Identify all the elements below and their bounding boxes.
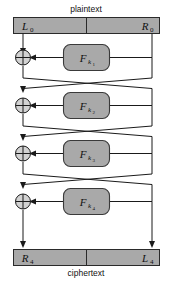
arrowhead-L4-in (149, 241, 155, 248)
label-R4: R (21, 252, 29, 264)
label-R0: R (141, 20, 149, 32)
label-L4: L (141, 252, 148, 264)
round-function-box-2[interactable]: F k 2 (64, 93, 110, 119)
arrowhead-R4-in (20, 241, 26, 248)
label-R0-subscript: 0 (150, 26, 154, 34)
arrowhead-xor2-in (20, 86, 26, 93)
fbox-2-label: F (79, 100, 87, 112)
xor-node-3[interactable] (16, 146, 31, 161)
plaintext-label: plaintext (70, 4, 102, 14)
arrowhead-xor3-in (20, 134, 26, 141)
xor-node-4[interactable] (16, 194, 31, 209)
round-function-box-4[interactable]: F k 4 (64, 189, 110, 215)
fbox-3-label: F (79, 148, 87, 160)
top-register-bar: L 0 R 0 (14, 18, 160, 35)
label-L0: L (21, 20, 28, 32)
feistel-diagram: plaintext L 0 R 0 (0, 0, 173, 282)
arrowhead-xor4-in (20, 182, 26, 189)
fbox-1-rect[interactable] (64, 45, 110, 71)
fbox-4-label: F (79, 196, 87, 208)
fbox-4-rect[interactable] (64, 189, 110, 215)
label-L0-subscript: 0 (30, 26, 34, 34)
round-function-box-3[interactable]: F k 3 (64, 141, 110, 167)
fbox-1-label: F (79, 52, 87, 64)
ciphertext-label: ciphertext (68, 268, 105, 278)
round-function-box-1[interactable]: F k 1 (64, 45, 110, 71)
fbox-2-rect[interactable] (64, 93, 110, 119)
feistel-network-svg: plaintext L 0 R 0 (0, 0, 173, 282)
label-R4-subscript: 4 (30, 258, 34, 266)
fbox-3-rect[interactable] (64, 141, 110, 167)
xor-node-1[interactable] (16, 50, 31, 65)
label-L4-subscript: 4 (150, 258, 154, 266)
xor-node-2[interactable] (16, 98, 31, 113)
bottom-register-bar: R 4 L 4 (14, 250, 160, 267)
